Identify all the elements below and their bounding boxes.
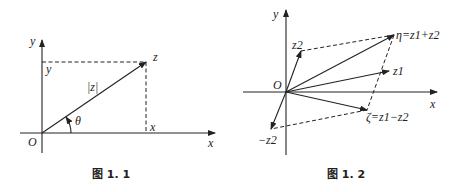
angle-arc [66, 117, 71, 133]
x-projection-label: x [149, 120, 156, 134]
y-projection-label: y [45, 62, 52, 76]
eta-label: η=z1+z2 [396, 28, 440, 42]
x-axis-label: x [429, 97, 436, 111]
z1-label: z1 [392, 64, 404, 78]
x-axis-label: x [207, 136, 214, 150]
angle-label: θ [75, 114, 81, 128]
neg-z2-label: −z2 [258, 133, 277, 147]
z2-label: z2 [291, 38, 303, 52]
parallelogram-bottom [271, 110, 367, 129]
vector-z [42, 62, 146, 133]
figure-1-2-caption: 图 1. 2 [327, 168, 365, 181]
modulus-label: |z| [87, 80, 98, 94]
origin-label: O [28, 135, 37, 149]
zeta-label: ζ=z1−z2 [366, 110, 408, 124]
y-axis-label: y [272, 7, 279, 21]
y-axis-label: y [29, 34, 36, 48]
figure-1-1: y y |z| z θ x O x 图 1. 1 [20, 34, 215, 181]
vector-zeta [286, 92, 367, 110]
origin-label: O [273, 78, 282, 92]
diagram-canvas: y y |z| z θ x O x 图 1. 1 y z2 η=z1+z2 z1… [0, 0, 453, 192]
point-z-label: z [152, 50, 158, 64]
vector-neg-z2 [271, 92, 286, 129]
vector-z1 [286, 71, 389, 92]
figure-1-2: y z2 η=z1+z2 z1 O x ζ=z1−z2 −z2 图 1. 2 [243, 7, 440, 181]
parallelogram-top [301, 35, 394, 51]
figure-1-1-caption: 图 1. 1 [92, 168, 130, 181]
